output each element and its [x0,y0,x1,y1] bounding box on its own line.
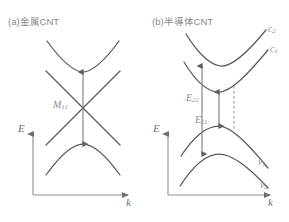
panel-a-linear-band-upper-right [83,71,120,108]
panel-b-bands [180,30,268,188]
panel-a-energy-axis-label: E [18,122,25,134]
panel-b-band-label-v1-sub: 1 [262,160,266,168]
panel-b-e11-label: E11 [195,114,208,126]
panel-a-momentum-axis-label: k [126,196,131,208]
panel-b-band-label-v2: v2 [260,180,268,191]
panel-a-m11-label-sub: 11 [61,103,67,111]
panel-b-band-label-c1-sub: 1 [274,47,278,55]
figure-canvas: (a)金属CNT (b)半導体CNT [0,0,289,222]
panel-b-energy-axis-label: E [153,122,160,134]
panel-a-title: (a)金属CNT [8,14,59,28]
panel-a-m11-label: M11 [53,99,68,111]
panel-a-lower-valence-subband [46,144,120,175]
panel-b-momentum-axis-label: k [268,196,273,208]
panel-b-conduction-subband-c2 [186,30,266,66]
panel-b-e22-label: E22 [186,92,199,104]
panel-b-e11-label-sub: 11 [201,118,207,126]
panel-b-conduction-subband-c1 [184,50,268,92]
panel-b-band-label-v1: v1 [258,157,266,168]
panel-b-band-label-c2-sub: 2 [272,27,276,35]
panel-a-linear-band-lower-left [46,108,83,145]
panel-b-axes [168,134,270,195]
panel-b-band-label-c2: c2 [268,24,276,35]
panel-b-valence-subband-v1 [181,126,268,168]
panel-b-band-label-c1: c1 [270,44,278,55]
panel-b-valence-subband-v2 [180,154,268,188]
panel-b-transition-arrows [202,66,219,154]
panel-b-title: (b)半導体CNT [152,14,213,28]
panel-a-linear-band-lower-right [83,108,120,145]
panel-b-e22-label-sub: 22 [192,96,199,104]
panel-b-band-label-v2-sub: 2 [264,183,268,191]
panel-a-upper-conduction-subband [47,41,119,72]
band-structure-diagram [0,0,289,222]
